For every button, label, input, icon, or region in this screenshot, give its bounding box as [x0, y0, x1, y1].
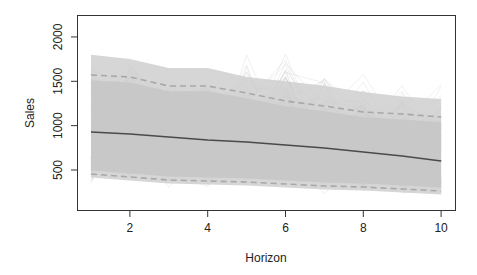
y-tick-label: 1000: [51, 112, 65, 139]
y-axis: 500100015002000: [51, 23, 77, 180]
x-tick-label: 2: [127, 221, 134, 235]
y-tick-label: 1500: [51, 68, 65, 95]
y-tick-label: 2000: [51, 23, 65, 50]
simulation-band: [91, 55, 441, 195]
x-tick-label: 6: [282, 221, 289, 235]
x-axis: 246810: [127, 211, 449, 235]
x-tick-label: 10: [434, 221, 448, 235]
x-axis-title: Horizon: [245, 251, 286, 265]
y-tick-label: 500: [51, 160, 65, 180]
x-tick-label: 8: [360, 221, 367, 235]
y-axis-title: Sales: [23, 98, 37, 128]
chart: 246810 500100015002000 Horizon Sales: [0, 0, 477, 275]
x-tick-label: 4: [204, 221, 211, 235]
